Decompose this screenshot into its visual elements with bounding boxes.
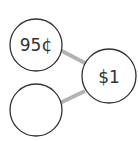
part-circle-bottom[interactable] [10, 84, 62, 136]
connector-top [60, 50, 85, 63]
connector-bottom [60, 91, 85, 103]
whole-label: $1 [98, 69, 120, 86]
part-top-label: 95¢ [20, 37, 52, 54]
